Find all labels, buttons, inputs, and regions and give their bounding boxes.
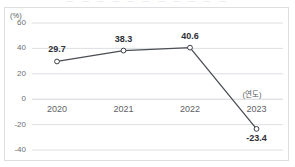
series-line (57, 48, 257, 129)
y-axis-unit-label: (%) (10, 11, 22, 20)
data-point-marker (121, 48, 126, 53)
x-axis-tick-label: 2022 (167, 104, 213, 114)
y-axis-tick-label: 20 (4, 69, 26, 78)
data-point-label: 29.7 (35, 44, 79, 54)
x-axis-tick-label: 2023 (234, 104, 280, 114)
x-axis-unit-label: (연도) (243, 88, 262, 99)
data-point-markers (55, 45, 259, 131)
gridlines (32, 23, 283, 150)
data-point-marker (188, 45, 193, 50)
y-axis-tick-label: -20 (4, 120, 26, 129)
data-point-label: -23.4 (235, 133, 279, 143)
data-point-label: 40.6 (168, 31, 212, 41)
y-axis-tick-label: 40 (4, 43, 26, 52)
data-point-marker (254, 127, 259, 132)
series-polyline (57, 48, 257, 129)
data-point-marker (55, 59, 60, 64)
y-axis-tick-label: -40 (4, 145, 26, 154)
data-point-label: 38.3 (102, 34, 146, 44)
y-axis-tick-label: 0 (4, 94, 26, 103)
x-axis-tick-label: 2021 (101, 104, 147, 114)
x-axis-tick-label: 2020 (34, 104, 80, 114)
